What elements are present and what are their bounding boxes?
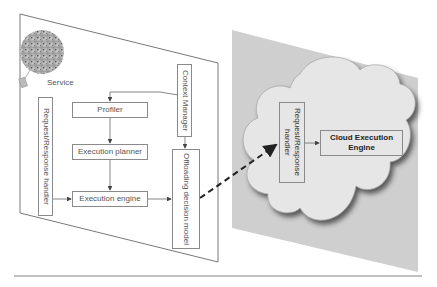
cloud-execution-engine-box: Cloud Execution Engine xyxy=(320,130,403,156)
service-label: Service xyxy=(47,78,74,87)
profiler-box: Profiler xyxy=(72,102,148,118)
service-globe-icon xyxy=(20,30,64,74)
request-response-handler-box: Request/Response handler xyxy=(38,97,53,216)
offloading-decision-model-box: Offloading decision model xyxy=(172,149,200,249)
context-manager-box: Context Manager xyxy=(177,64,192,137)
cloud-request-response-handler-box: Request/Response handler xyxy=(279,102,305,183)
execution-engine-box: Execution engine xyxy=(72,191,148,207)
execution-planner-box: Execution planner xyxy=(72,144,148,160)
